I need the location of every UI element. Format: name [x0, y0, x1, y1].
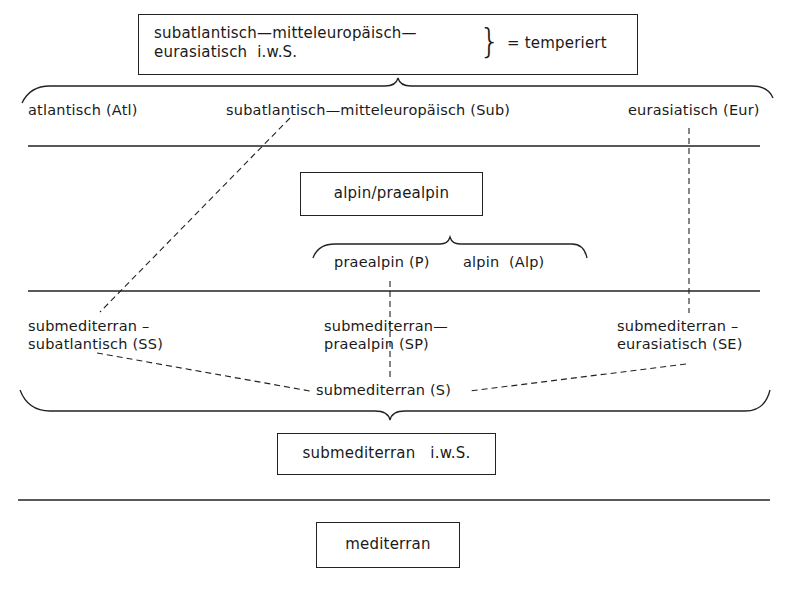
temperate-equals-label: = temperiert — [507, 35, 607, 52]
submediterranean-box: submediterran i.w.S. — [277, 433, 496, 475]
temperate-box-line2: eurasiatisch i.w.S. — [154, 44, 297, 61]
label-atlantic: atlantisch (Atl) — [28, 102, 138, 119]
label-praealpine: praealpin (P) — [334, 254, 430, 271]
temperate-box-line1: subatlantisch—mitteleuropäisch— — [154, 25, 417, 42]
mediterranean-box-label: mediterran — [317, 523, 459, 553]
alpine-box: alpin/praealpin — [300, 172, 483, 216]
submediterranean-box-label: submediterran i.w.S. — [278, 434, 495, 462]
label-submediterranean-s: submediterran (S) — [313, 382, 454, 399]
alpine-box-label: alpin/praealpin — [301, 173, 482, 202]
label-alpine: alpin (Alp) — [463, 254, 544, 271]
dash-ss-to-s — [97, 353, 310, 391]
brace-right-icon: } — [479, 21, 501, 61]
label-se-line2: eurasiatisch (SE) — [617, 336, 743, 353]
label-ss-line1: submediterran – — [28, 318, 149, 335]
mediterranean-box: mediterran — [316, 522, 460, 568]
label-ss-line2: subatlantisch (SS) — [28, 336, 163, 353]
temperate-box: subatlantisch—mitteleuropäisch— eurasiat… — [138, 14, 638, 75]
label-se-line1: submediterran – — [617, 318, 738, 335]
label-sp-line2: praealpin (SP) — [324, 336, 429, 353]
label-eurasian: eurasiatisch (Eur) — [628, 102, 760, 119]
label-sp-line1: submediterran— — [324, 318, 448, 335]
dash-se-to-s — [470, 364, 686, 391]
dash-sub-to-ss — [100, 118, 290, 312]
brace-temperate — [22, 78, 773, 103]
diagram-lines — [0, 0, 792, 589]
label-subatlantic: subatlantisch—mitteleuropäisch (Sub) — [226, 102, 510, 119]
